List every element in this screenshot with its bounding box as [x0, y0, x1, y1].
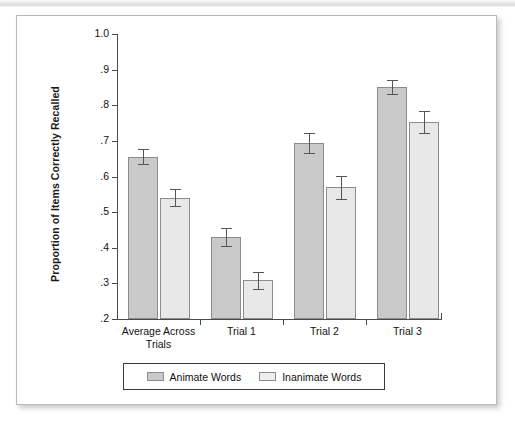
y-tick-mark — [112, 283, 117, 284]
error-bar-cap-bottom — [221, 246, 232, 247]
chart-legend: Animate WordsInanimate Words — [123, 363, 385, 390]
bar-animate — [211, 237, 241, 319]
error-bar-cap-top — [336, 176, 347, 177]
y-tick-label: .3 — [100, 276, 109, 288]
bar-animate — [128, 157, 158, 319]
error-bar-cap-bottom — [419, 133, 430, 134]
error-bar-cap-bottom — [387, 94, 398, 95]
legend-label: Animate Words — [170, 371, 242, 383]
error-bar-cap-top — [170, 189, 181, 190]
legend-entry: Animate Words — [147, 371, 242, 383]
y-tick-mark — [112, 319, 117, 320]
y-tick-label: .7 — [100, 134, 109, 146]
x-axis-end-tick — [441, 313, 442, 320]
error-bar-line — [309, 133, 310, 153]
error-bar-cap-bottom — [304, 153, 315, 154]
figure-card: Proportion of Items Correctly Recalled .… — [16, 15, 497, 405]
error-bar-line — [258, 272, 259, 289]
legend-entry: Inanimate Words — [259, 371, 361, 383]
y-tick-label: .6 — [100, 170, 109, 182]
y-tick-mark — [112, 141, 117, 142]
error-bar-line — [424, 111, 425, 134]
y-tick-label: .8 — [100, 98, 109, 110]
bar-inanimate — [326, 187, 356, 319]
y-tick-label: .2 — [100, 312, 109, 324]
legend-swatch-animate — [147, 372, 164, 381]
error-bar-line — [226, 228, 227, 247]
y-tick-mark — [112, 70, 117, 71]
y-tick-label: 1.0 — [94, 27, 109, 39]
y-tick-mark — [112, 248, 117, 249]
x-axis-category-label: Trial 3 — [348, 325, 468, 338]
error-bar-cap-bottom — [138, 164, 149, 165]
error-bar-cap-top — [304, 133, 315, 134]
error-bar-line — [175, 189, 176, 206]
x-axis-line — [117, 319, 441, 320]
plot-area: Proportion of Items Correctly Recalled .… — [17, 16, 498, 406]
y-tick-mark — [112, 212, 117, 213]
error-bar-cap-top — [387, 80, 398, 81]
error-bar-cap-top — [419, 111, 430, 112]
error-bar-line — [392, 80, 393, 94]
bar-animate — [377, 87, 407, 319]
y-tick-mark — [112, 105, 117, 106]
error-bar-line — [143, 149, 144, 164]
error-bar-line — [341, 176, 342, 199]
scan-artifact-band — [0, 0, 515, 7]
legend-label: Inanimate Words — [282, 371, 361, 383]
y-tick-label: .9 — [100, 63, 109, 75]
y-tick-label: .5 — [100, 205, 109, 217]
error-bar-cap-bottom — [253, 289, 264, 290]
y-tick-mark — [112, 177, 117, 178]
y-tick-mark — [112, 34, 117, 35]
bar-inanimate — [409, 122, 439, 319]
y-axis-line — [117, 34, 118, 319]
bar-inanimate — [160, 198, 190, 319]
error-bar-cap-top — [221, 228, 232, 229]
y-axis-label: Proportion of Items Correctly Recalled — [49, 54, 61, 314]
error-bar-cap-bottom — [336, 199, 347, 200]
bar-animate — [294, 143, 324, 319]
page-root: Proportion of Items Correctly Recalled .… — [0, 0, 515, 426]
y-tick-label: .4 — [100, 241, 109, 253]
error-bar-cap-bottom — [170, 206, 181, 207]
error-bar-cap-top — [138, 149, 149, 150]
legend-swatch-inanimate — [259, 372, 276, 381]
error-bar-cap-top — [253, 272, 264, 273]
